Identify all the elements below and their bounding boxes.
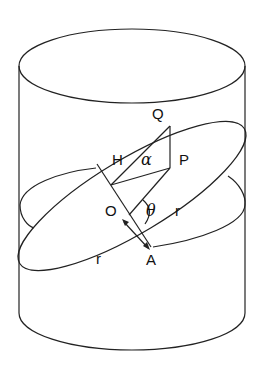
label-theta: θ [146, 201, 156, 220]
horizontal-section-right [153, 176, 245, 247]
cylinder-top-ellipse [19, 29, 245, 103]
label-r-right: r [175, 202, 180, 219]
label-O: O [105, 202, 117, 219]
diagram-canvas: Q H α P O θ r r A [0, 0, 262, 365]
label-H: H [112, 151, 123, 168]
tilted-ellipse [1, 97, 262, 295]
arrow-OA [124, 222, 148, 248]
label-Q: Q [152, 105, 164, 122]
label-r-left: r [96, 250, 101, 267]
arrow-head-O [122, 219, 129, 226]
cylinder-diagram: Q H α P O θ r r A [0, 0, 262, 365]
label-A: A [146, 251, 156, 268]
horizontal-section-left [20, 168, 96, 228]
label-alpha: α [141, 150, 152, 169]
label-P: P [179, 151, 189, 168]
cylinder-bottom-arc [19, 313, 245, 350]
